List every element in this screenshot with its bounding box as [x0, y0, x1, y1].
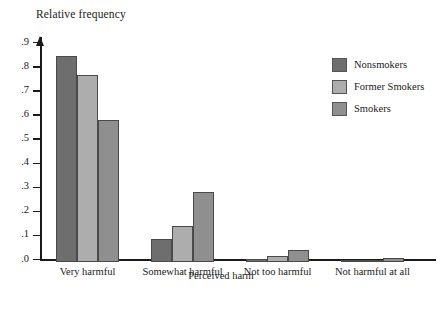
bar	[77, 75, 98, 262]
bar	[288, 250, 309, 262]
y-axis-tick-label: .1	[21, 227, 29, 241]
y-axis-tick: .1	[33, 235, 41, 236]
legend-item-label: Nonsmokers	[354, 59, 407, 70]
y-axis-tick: .0	[33, 259, 41, 260]
legend-item: Smokers	[332, 99, 424, 118]
y-axis-tick-label: .4	[21, 155, 29, 169]
legend-item: Former Smokers	[332, 77, 424, 96]
bar	[98, 120, 119, 262]
y-axis-tick-label: .6	[21, 107, 29, 121]
y-axis-tick-label: .0	[21, 252, 29, 266]
y-axis-tick-label: .2	[21, 203, 29, 217]
bar	[193, 192, 214, 262]
y-axis-tick: .8	[33, 66, 41, 67]
y-axis-tick: .9	[33, 42, 41, 43]
legend-color-swatch	[332, 80, 347, 94]
y-axis-tick: .3	[33, 187, 41, 188]
y-axis-title: Relative frequency	[36, 8, 126, 20]
legend-item-label: Former Smokers	[354, 81, 424, 92]
y-axis-tick: .2	[33, 211, 41, 212]
legend-color-swatch	[332, 58, 347, 72]
y-axis-tick-label: .3	[21, 179, 29, 193]
bar	[56, 56, 77, 262]
bar	[151, 239, 172, 262]
bar	[267, 256, 288, 262]
legend-item-label: Smokers	[354, 103, 391, 114]
y-axis-tick: .5	[33, 138, 41, 139]
y-axis-line	[40, 37, 42, 259]
bar	[246, 259, 267, 262]
y-axis-tick-label: .7	[21, 83, 29, 97]
y-axis-tick: .6	[33, 114, 41, 115]
y-axis-arrow-icon	[36, 36, 44, 46]
bar-chart: Relative frequency .0.1.2.3.4.5.6.7.8.9 …	[0, 0, 442, 310]
y-axis-tick-label: .9	[21, 35, 29, 49]
legend-item: Nonsmokers	[332, 55, 424, 74]
legend-color-swatch	[332, 102, 347, 116]
y-axis-tick-label: .5	[21, 131, 29, 145]
y-axis-tick: .7	[33, 90, 41, 91]
bar	[383, 258, 404, 262]
legend: NonsmokersFormer SmokersSmokers	[332, 55, 424, 121]
bar	[341, 260, 362, 262]
x-axis-title: Perceived harm	[0, 270, 442, 281]
bar	[172, 226, 193, 262]
bar	[362, 260, 383, 262]
y-axis-tick: .4	[33, 163, 41, 164]
y-axis-tick-label: .8	[21, 59, 29, 73]
